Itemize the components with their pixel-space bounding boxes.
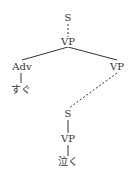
node-vp-right: VP [109,62,125,72]
node-vp-top: VP [60,37,76,47]
edge-vp-vp [68,47,117,60]
node-adv-word: すぐ [10,85,32,95]
node-adv: Adv [11,62,32,72]
node-verb-word: 泣く [57,157,79,167]
node-vp-embedded: VP [60,134,76,144]
node-s-root: S [64,13,73,23]
edge-vp-adv [22,47,68,60]
edge-vp-s [69,73,117,108]
node-s-embedded: S [64,109,73,119]
